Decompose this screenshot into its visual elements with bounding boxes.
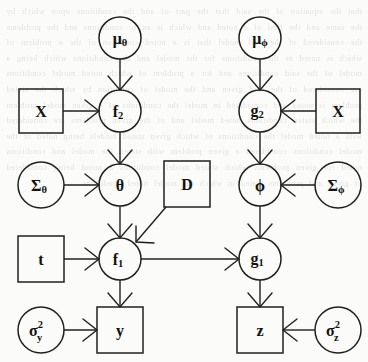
node-phi[interactable]: ϕ <box>239 164 281 206</box>
node-x-right-label: X <box>332 103 344 120</box>
node-d[interactable]: D <box>164 161 210 207</box>
node-f2-sub: 2 <box>118 110 123 121</box>
edge-x-right-to-g2 <box>281 100 316 122</box>
svg-text:Σθ: Σθ <box>31 177 47 195</box>
node-mu-theta-sub: θ <box>122 37 128 48</box>
node-sigma-phi-sub: ϕ <box>338 184 345 195</box>
svg-text:σ2y: σ2y <box>29 319 43 343</box>
node-x-left[interactable]: X <box>19 89 63 133</box>
node-sigma2-y[interactable]: σ2y <box>18 307 64 353</box>
node-f1-sub: 1 <box>118 258 123 269</box>
svg-text:g2: g2 <box>250 102 263 120</box>
svg-text:f2: f2 <box>113 103 124 121</box>
node-g2-base: g <box>250 102 258 120</box>
node-sigma2-y-sup: 2 <box>38 319 43 330</box>
edge-sigma2-z-to-z <box>283 319 315 341</box>
edge-g1-to-z <box>248 280 272 307</box>
node-x-right[interactable]: X <box>316 89 360 133</box>
node-sigma2-z[interactable]: σ2z <box>315 307 361 353</box>
node-g2-sub: 2 <box>258 109 263 120</box>
node-y-label: y <box>116 322 124 340</box>
node-sigma-theta[interactable]: Σθ <box>18 162 64 208</box>
node-sigma2-z-sub: z <box>334 332 339 343</box>
svg-text:Σϕ: Σϕ <box>327 177 344 195</box>
node-t-label: t <box>38 251 44 268</box>
edge-sigma-theta-to-theta <box>64 174 99 196</box>
node-mu-theta[interactable]: μθ <box>99 17 141 59</box>
node-mu-phi[interactable]: μϕ <box>239 17 281 59</box>
node-theta-label: θ <box>116 177 124 194</box>
node-phi-label: ϕ <box>255 177 265 195</box>
node-z[interactable]: z <box>237 307 283 353</box>
node-sigma-phi[interactable]: Σϕ <box>315 162 361 208</box>
svg-text:μϕ: μϕ <box>252 30 268 48</box>
node-mu-phi-sub: ϕ <box>261 37 268 48</box>
edge-x-left-to-f2 <box>63 100 99 122</box>
node-sigma2-z-sup: 2 <box>335 319 340 330</box>
node-y[interactable]: y <box>97 307 143 353</box>
edge-sigma-phi-to-phi <box>281 174 315 196</box>
edge-phi-to-g1 <box>248 206 272 238</box>
node-d-label: D <box>181 176 193 193</box>
node-g1[interactable]: g1 <box>239 238 281 280</box>
svg-text:μθ: μθ <box>113 30 128 48</box>
edge-f1-to-g1 <box>141 248 239 270</box>
node-sigma-theta-sub: θ <box>41 184 47 195</box>
node-z-label: z <box>256 322 263 339</box>
node-f1[interactable]: f1 <box>99 238 141 280</box>
node-sigma-theta-base: Σ <box>31 177 41 194</box>
svg-text:σ2z: σ2z <box>326 319 340 343</box>
node-sigma2-y-sub: y <box>37 332 43 343</box>
node-mu-theta-base: μ <box>113 30 122 48</box>
node-t[interactable]: t <box>18 236 64 282</box>
svg-text:g1: g1 <box>250 250 263 268</box>
node-g1-sub: 1 <box>258 257 263 268</box>
edge-t-to-f1 <box>64 248 99 270</box>
diagram-page: that the equation of the said that the p… <box>0 0 368 362</box>
edge-f1-to-y <box>108 280 132 307</box>
node-g1-base: g <box>250 250 258 268</box>
graphical-model-canvas: μθ μϕ X f2 <box>0 0 368 362</box>
edge-g2-to-phi <box>248 132 272 164</box>
svg-text:f1: f1 <box>113 251 124 269</box>
node-g2[interactable]: g2 <box>239 90 281 132</box>
edge-f2-to-theta <box>108 132 132 164</box>
node-x-left-label: X <box>35 103 47 120</box>
edge-mu-theta-to-f2 <box>108 59 132 90</box>
edge-theta-to-f1 <box>108 206 132 238</box>
node-mu-phi-base: μ <box>252 30 261 48</box>
node-theta[interactable]: θ <box>99 164 141 206</box>
edge-mu-phi-to-g2 <box>248 59 272 90</box>
node-sigma-phi-base: Σ <box>327 177 337 194</box>
edge-d-to-f1 <box>136 207 166 243</box>
node-f2[interactable]: f2 <box>99 90 141 132</box>
edge-sigma2-y-to-y <box>64 319 97 341</box>
